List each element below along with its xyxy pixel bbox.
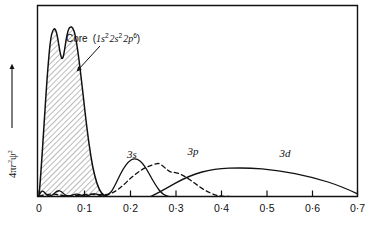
curve-label-3s: 3s [126,148,137,160]
x-tick-labels: 0 0·1 0·2 0·3 0·4 0·5 0·6 0·7 [36,202,365,214]
curve-label-3d: 3d [279,147,292,159]
core-leader-line [78,46,100,70]
radial-distribution-chart: 0 0·1 0·2 0·3 0·4 0·5 0·6 0·7 4πr2ψ2 Cor… [0,0,388,225]
core-label-shell-1-sup: 2 [105,32,109,39]
x-tick-4: 0·4 [214,202,229,214]
x-tick-7: 0·7 [350,202,365,214]
core-label-word: Core [66,33,88,44]
figure-root: 0 0·1 0·2 0·3 0·4 0·5 0·6 0·7 4πr2ψ2 Cor… [0,0,388,225]
core-label-shell-3: 2p [123,33,133,44]
y-label-psi-sup: 2 [6,150,13,153]
x-tick-5: 0·5 [259,202,274,214]
core-label-shell-2-sup: 2 [119,32,123,39]
core-label: Core(1s22s22p6) [66,32,140,44]
core-label-shell-1: 1s [96,33,105,44]
curve-label-3p: 3p [187,145,200,157]
curve-3d [151,168,357,196]
x-tick-1: 0·1 [77,202,92,214]
y-axis-label: 4πr2ψ2 [6,150,18,178]
x-tick-0: 0 [36,202,42,214]
series-3d [151,168,357,196]
x-tick-3: 0·3 [168,202,183,214]
core-label-shell-2: 2s [110,33,119,44]
core-label-close-paren: ) [137,33,140,44]
x-tick-6: 0·6 [305,202,320,214]
series-core [39,27,108,197]
x-tick-2: 0·2 [123,202,138,214]
